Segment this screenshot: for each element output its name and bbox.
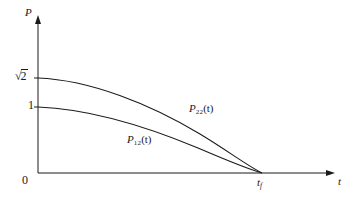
curve-p22 [38, 78, 262, 173]
riccati-solution-figure: P t 0 √2 1 P22(t) P12(t) tf [0, 0, 356, 202]
x-tick-label-tf: tf [257, 177, 262, 190]
x-axis-label: t [338, 176, 341, 187]
y-tick-label-sqrt2: √2 [15, 69, 28, 84]
curve-label-p12: P12(t) [127, 134, 152, 147]
curve-label-p12-arg: (t) [141, 133, 151, 145]
curve-label-p22-arg: (t) [203, 102, 213, 114]
x-axis-arrowhead [326, 170, 335, 176]
curve-label-p12-base: P [127, 133, 134, 145]
origin-label: 0 [22, 174, 28, 186]
y-tick-label-one: 1 [28, 99, 34, 111]
y-axis-arrowhead [35, 15, 41, 24]
radicand-value: 2 [21, 69, 28, 84]
y-axis-label: P [25, 7, 32, 18]
plot-canvas [0, 0, 356, 202]
curve-label-p22: P22(t) [189, 103, 214, 116]
curve-label-p22-base: P [189, 102, 196, 114]
tf-subscript: f [260, 181, 262, 190]
